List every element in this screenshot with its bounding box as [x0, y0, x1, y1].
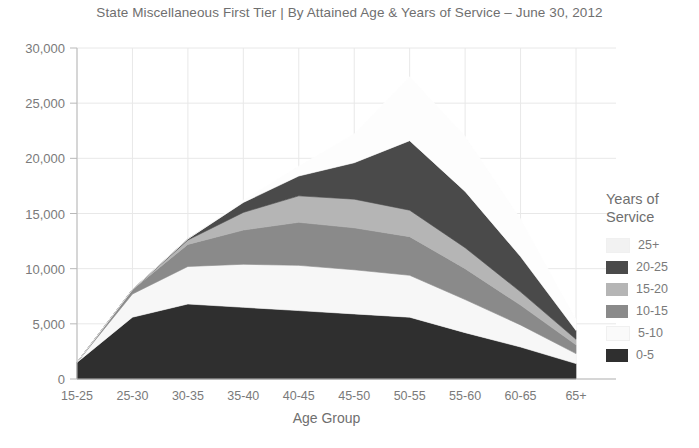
x-tick-label: 65+ [565, 389, 586, 403]
legend-swatch [606, 349, 628, 362]
x-tick-label: 30-35 [172, 389, 204, 403]
legend-label: 5-10 [638, 326, 663, 340]
x-tick-label: 15-25 [61, 389, 93, 403]
y-tick-label: 20,000 [25, 151, 65, 166]
y-tick-label: 5,000 [32, 317, 65, 332]
x-tick-label: 35-40 [227, 389, 259, 403]
x-tick-label: 50-55 [394, 389, 426, 403]
legend-item[interactable]: 5-10 [606, 324, 699, 342]
legend-item[interactable]: 20-25 [606, 258, 699, 276]
x-tick-labels-group: 15-2525-3030-3535-4040-4545-5050-5555-60… [61, 389, 587, 403]
x-tick-label: 60-65 [505, 389, 537, 403]
legend-swatch [606, 261, 628, 274]
legend-item[interactable]: 0-5 [606, 346, 699, 364]
y-tick-label: 10,000 [25, 262, 65, 277]
legend-swatch [606, 326, 630, 341]
legend-item[interactable]: 15-20 [606, 280, 699, 298]
legend-label: 10-15 [636, 304, 668, 318]
x-tick-label: 25-30 [116, 389, 148, 403]
y-tick-label: 15,000 [25, 207, 65, 222]
legend-item[interactable]: 10-15 [606, 302, 699, 320]
stacked-area-plot: 05,00010,00015,00020,00025,00030,000 15-… [0, 0, 699, 448]
legend-items: 25+20-2515-2010-155-100-5 [606, 236, 699, 364]
y-tick-label: 25,000 [25, 96, 65, 111]
legend-title: Years of Service [606, 190, 699, 226]
legend-label: 25+ [638, 238, 659, 252]
legend-swatch [606, 238, 630, 253]
legend-swatch [606, 305, 628, 318]
legend-label: 0-5 [636, 348, 654, 362]
chart-container: State Miscellaneous First Tier | By Atta… [0, 0, 699, 448]
x-tick-label: 55-60 [449, 389, 481, 403]
x-tick-label: 40-45 [283, 389, 315, 403]
y-tick-labels-group: 05,00010,00015,00020,00025,00030,000 [25, 41, 65, 387]
y-tick-label: 0 [58, 372, 65, 387]
area-bands-group [77, 77, 576, 379]
legend-item[interactable]: 25+ [606, 236, 699, 254]
legend-label: 20-25 [636, 260, 668, 274]
y-tick-label: 30,000 [25, 41, 65, 56]
x-axis-title-group: Age Group [293, 410, 361, 426]
legend-label: 15-20 [636, 282, 668, 296]
x-tick-label: 45-50 [338, 389, 370, 403]
legend-swatch [606, 283, 628, 296]
x-axis-title: Age Group [293, 410, 361, 426]
legend: Years of Service 25+20-2515-2010-155-100… [606, 190, 699, 368]
